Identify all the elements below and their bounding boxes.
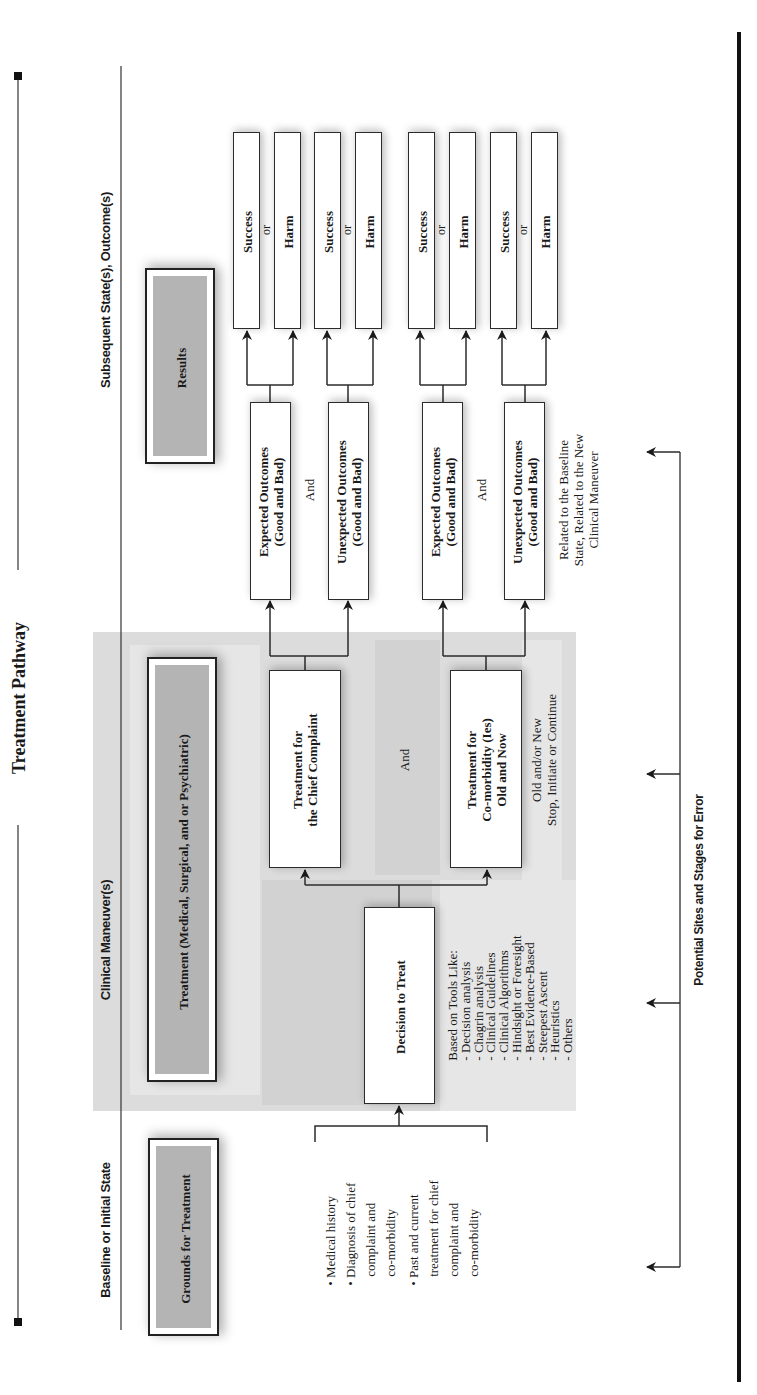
unexpected-outcomes-box-2: Unexpected Outcomes(Good and Bad)	[504, 402, 545, 600]
decision-tools-list: Based on Tools Like: - Decision analysis…	[451, 890, 571, 1105]
expected-outcomes-box-1: Expected Outcomes(Good and Bad)	[250, 402, 291, 600]
grounds-item: • Medical history	[321, 1180, 341, 1286]
grounds-item: • Diagnosis of chief	[341, 1180, 361, 1286]
harm-box-3: Harm	[449, 132, 476, 329]
grounds-list: • Medical history • Diagnosis of chief c…	[312, 1145, 492, 1320]
harm-box-4: Harm	[531, 132, 558, 329]
treatments-and-label: And	[385, 700, 425, 820]
unexpected-outcomes-box-1: Unexpected Outcomes(Good and Bad)	[328, 402, 369, 600]
treatment-header-box: Treatment (Medical, Surgical, and or Psy…	[147, 657, 217, 1082]
treatment-note: Old and/or New Stop, Initiate or Continu…	[525, 650, 565, 870]
or-label-1: or	[260, 200, 274, 260]
error-sites-label: Potential Sites and Stages for Error	[690, 760, 710, 1020]
tool-item: - Others	[562, 935, 575, 1060]
outcomes-note: Related to the Baseline State, Related t…	[548, 400, 608, 600]
success-box-3: Success	[408, 132, 435, 329]
outcomes-and-label-1: And	[295, 440, 325, 540]
success-box-1: Success	[233, 132, 260, 329]
decision-to-treat-box: Decision to Treat	[364, 907, 435, 1104]
treatment-comorbidity-box: Treatment for Co-morbidity (Ies) Old and…	[450, 670, 522, 868]
success-box-4: Success	[490, 132, 517, 329]
treatment-pathway-diagram: Treatment Pathway Subsequent State(s), O…	[0, 0, 757, 1395]
grounds-header-box: Grounds for Treatment	[148, 1138, 219, 1336]
or-label-4: or	[517, 200, 531, 260]
stage-label-clinical: Clinical Maneuver(s)	[95, 840, 117, 1040]
stage-label-baseline: Baseline or Initial State	[95, 1140, 117, 1320]
expected-outcomes-box-2: Expected Outcomes(Good and Bad)	[422, 402, 463, 600]
harm-box-2: Harm	[355, 132, 382, 329]
grounds-item: • Past and current	[404, 1180, 424, 1286]
stage-label-subsequent: Subsequent State(s), Outcome(s)	[95, 150, 117, 430]
treatment-chief-complaint-box: Treatment for the Chief Complaint	[269, 670, 341, 868]
outcomes-and-label-2: And	[467, 440, 497, 540]
harm-box-1: Harm	[274, 132, 301, 329]
diagram-title: Treatment Pathway	[2, 570, 36, 825]
results-header-box: Results	[145, 268, 215, 464]
or-label-3: or	[435, 200, 449, 260]
success-box-2: Success	[314, 132, 341, 329]
or-label-2: or	[341, 200, 355, 260]
